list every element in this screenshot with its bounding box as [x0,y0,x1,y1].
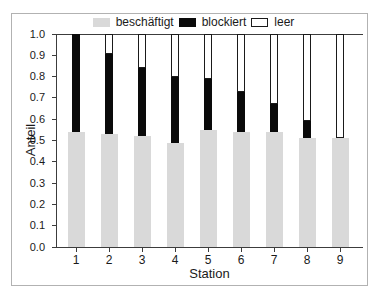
x-tick-mark [274,248,275,252]
bar-7-beschaeftigt-segment [266,132,283,247]
bar-3-beschaeftigt-segment [134,136,151,247]
y-tick-label: 1.0 [15,28,45,40]
x-tick-label: 1 [64,253,88,267]
bar-6-leer-segment [237,34,245,92]
y-tick-label: 0.4 [15,155,45,167]
legend-item-blockiert: blockiert [179,15,247,29]
x-axis: 123456789 [56,248,363,268]
x-tick-label: 6 [229,253,253,267]
bar-8-blockiert-segment [303,121,311,138]
chart-canvas: beschäftigt blockiert leer Anteil 0.00.1… [0,0,378,292]
bar-5-blockiert-segment [204,79,212,130]
y-tick-label: 0.7 [15,91,45,103]
legend-item-leer: leer [251,15,294,29]
x-tick-mark [76,248,77,252]
bar-5-leer-segment [204,34,212,79]
x-tick-mark [175,248,176,252]
legend-swatch-blockiert-icon [179,18,196,27]
x-tick-label: 2 [97,253,121,267]
bar-6-beschaeftigt-segment [233,132,250,247]
legend-label-beschaeftigt: beschäftigt [116,15,174,29]
bar-2-blockiert-segment [105,54,113,134]
x-tick-mark [208,248,209,252]
plot-area [56,34,363,247]
x-tick-label: 3 [130,253,154,267]
bar-1-beschaeftigt-segment [68,132,85,247]
legend-swatch-beschaeftigt-icon [93,18,110,27]
bar-8-beschaeftigt-segment [299,138,316,247]
y-tick-label: 0.9 [15,49,45,61]
legend: beschäftigt blockiert leer [40,14,347,30]
x-tick-label: 4 [163,253,187,267]
x-tick-mark [142,248,143,252]
y-tick-label: 0.5 [15,134,45,146]
bar-4-beschaeftigt-segment [167,143,184,247]
bar-2-leer-segment [105,34,113,54]
bar-4-blockiert-segment [171,77,179,143]
x-tick-label: 9 [328,253,352,267]
bar-2-beschaeftigt-segment [101,134,118,247]
y-tick-label: 0.8 [15,70,45,82]
x-tick-label: 7 [262,253,286,267]
bar-4-leer-segment [171,34,179,77]
legend-label-leer: leer [274,15,294,29]
x-tick-mark [307,248,308,252]
x-tick-mark [241,248,242,252]
bar-3-leer-segment [138,34,146,68]
bar-8-leer-segment [303,34,311,121]
x-tick-label: 5 [196,253,220,267]
bar-9-beschaeftigt-segment [332,138,349,247]
y-tick-label: 0.1 [15,219,45,231]
legend-swatch-leer-icon [251,18,268,27]
x-tick-mark [109,248,110,252]
bar-3-blockiert-segment [138,68,146,136]
y-tick-label: 0.6 [15,113,45,125]
legend-label-blockiert: blockiert [202,15,247,29]
y-tick-label: 0.3 [15,177,45,189]
legend-item-beschaeftigt: beschäftigt [93,15,174,29]
x-tick-label: 8 [295,253,319,267]
bar-7-blockiert-segment [270,104,278,132]
x-tick-mark [340,248,341,252]
bar-9-leer-segment [336,34,344,138]
x-axis-title: Station [56,266,363,281]
y-tick-label: 0.2 [15,198,45,210]
y-axis: 0.00.10.20.30.40.50.60.70.80.91.0 [0,34,56,247]
y-tick-label: 0.0 [15,241,45,253]
bar-1-blockiert-segment [72,34,80,132]
bar-7-leer-segment [270,34,278,104]
bar-6-blockiert-segment [237,92,245,132]
bar-5-beschaeftigt-segment [200,130,217,247]
